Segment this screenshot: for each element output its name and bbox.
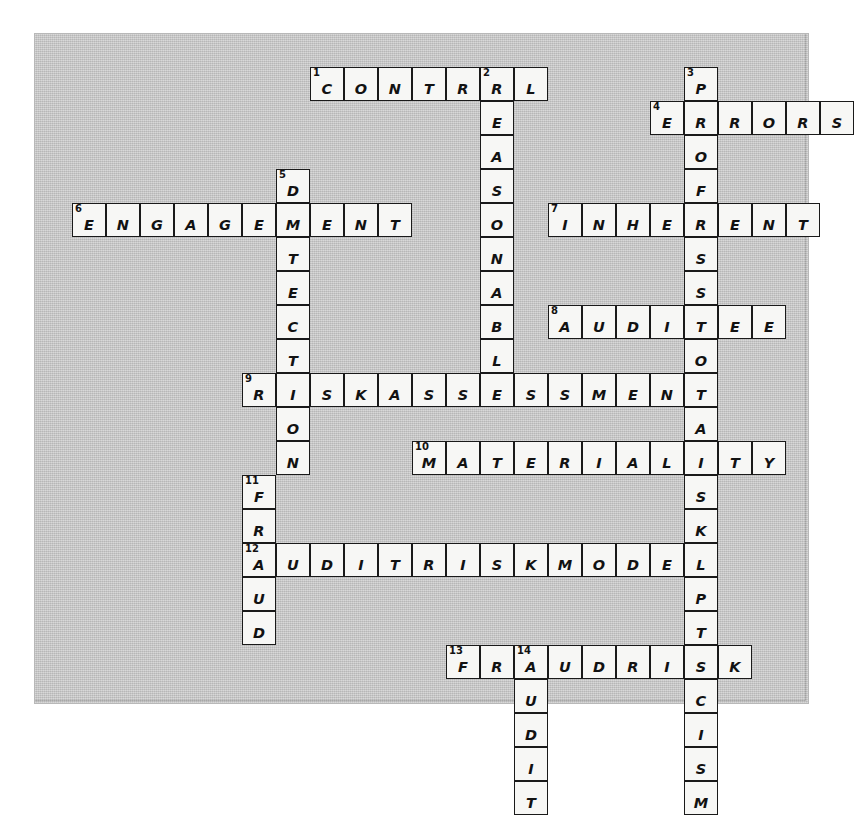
crossword-cell-c17-r11[interactable]: L — [650, 441, 684, 475]
crossword-cell-c14-r4[interactable]: 7I — [548, 203, 582, 237]
crossword-cell-c18-r9[interactable]: T — [684, 373, 718, 407]
crossword-cell-c8-r0[interactable]: O — [344, 67, 378, 101]
crossword-cell-c4-r4[interactable]: G — [208, 203, 242, 237]
crossword-cell-c18-r8[interactable]: O — [684, 339, 718, 373]
crossword-cell-c18-r6[interactable]: S — [684, 271, 718, 305]
crossword-cell-c20-r1[interactable]: O — [752, 101, 786, 135]
crossword-cell-c17-r17[interactable]: I — [650, 645, 684, 679]
crossword-cell-c6-r4[interactable]: M — [276, 203, 310, 237]
crossword-cell-c13-r20[interactable]: I — [514, 747, 548, 781]
crossword-cell-c18-r20[interactable]: S — [684, 747, 718, 781]
crossword-cell-c5-r16[interactable]: D — [242, 611, 276, 645]
crossword-cell-c18-r17[interactable]: S — [684, 645, 718, 679]
crossword-cell-c12-r5[interactable]: N — [480, 237, 514, 271]
crossword-cell-c12-r14[interactable]: S — [480, 543, 514, 577]
crossword-cell-c7-r0[interactable]: 1C — [310, 67, 344, 101]
crossword-cell-c6-r8[interactable]: T — [276, 339, 310, 373]
crossword-cell-c14-r14[interactable]: M — [548, 543, 582, 577]
crossword-cell-c15-r4[interactable]: N — [582, 203, 616, 237]
crossword-cell-c14-r11[interactable]: R — [548, 441, 582, 475]
crossword-cell-c17-r14[interactable]: E — [650, 543, 684, 577]
crossword-cell-c14-r17[interactable]: U — [548, 645, 582, 679]
crossword-cell-c5-r14[interactable]: 12A — [242, 543, 276, 577]
crossword-cell-c17-r1[interactable]: 4E — [650, 101, 684, 135]
crossword-cell-c7-r9[interactable]: S — [310, 373, 344, 407]
crossword-cell-c6-r5[interactable]: T — [276, 237, 310, 271]
crossword-cell-c12-r4[interactable]: O — [480, 203, 514, 237]
crossword-cell-c18-r7[interactable]: T — [684, 305, 718, 339]
crossword-cell-c5-r13[interactable]: R — [242, 509, 276, 543]
crossword-cell-c13-r21[interactable]: T — [514, 781, 548, 815]
crossword-cell-c21-r4[interactable]: T — [786, 203, 820, 237]
crossword-cell-c16-r9[interactable]: E — [616, 373, 650, 407]
crossword-cell-c12-r1[interactable]: E — [480, 101, 514, 135]
crossword-cell-c14-r9[interactable]: S — [548, 373, 582, 407]
crossword-cell-c18-r2[interactable]: O — [684, 135, 718, 169]
crossword-cell-c19-r17[interactable]: K — [718, 645, 752, 679]
crossword-cell-c9-r4[interactable]: T — [378, 203, 412, 237]
crossword-cell-c18-r10[interactable]: A — [684, 407, 718, 441]
crossword-cell-c1-r4[interactable]: N — [106, 203, 140, 237]
crossword-cell-c2-r4[interactable]: G — [140, 203, 174, 237]
crossword-cell-c19-r4[interactable]: E — [718, 203, 752, 237]
crossword-cell-c18-r11[interactable]: I — [684, 441, 718, 475]
crossword-cell-c10-r9[interactable]: S — [412, 373, 446, 407]
crossword-cell-c7-r14[interactable]: D — [310, 543, 344, 577]
crossword-cell-c8-r9[interactable]: K — [344, 373, 378, 407]
crossword-cell-c13-r11[interactable]: E — [514, 441, 548, 475]
crossword-cell-c0-r4[interactable]: 6E — [72, 203, 106, 237]
crossword-cell-c18-r18[interactable]: C — [684, 679, 718, 713]
crossword-cell-c11-r17[interactable]: 13F — [446, 645, 480, 679]
crossword-cell-c18-r12[interactable]: S — [684, 475, 718, 509]
crossword-cell-c17-r4[interactable]: E — [650, 203, 684, 237]
crossword-cell-c16-r7[interactable]: D — [616, 305, 650, 339]
crossword-cell-c10-r0[interactable]: T — [412, 67, 446, 101]
crossword-cell-c19-r11[interactable]: T — [718, 441, 752, 475]
crossword-cell-c12-r0[interactable]: 2R — [480, 67, 514, 101]
crossword-cell-c12-r7[interactable]: B — [480, 305, 514, 339]
crossword-cell-c18-r3[interactable]: F — [684, 169, 718, 203]
crossword-cell-c8-r14[interactable]: I — [344, 543, 378, 577]
crossword-cell-c12-r6[interactable]: A — [480, 271, 514, 305]
crossword-cell-c18-r21[interactable]: M — [684, 781, 718, 815]
crossword-cell-c12-r3[interactable]: S — [480, 169, 514, 203]
crossword-cell-c13-r14[interactable]: K — [514, 543, 548, 577]
crossword-cell-c11-r0[interactable]: R — [446, 67, 480, 101]
crossword-cell-c6-r14[interactable]: U — [276, 543, 310, 577]
crossword-cell-c6-r6[interactable]: E — [276, 271, 310, 305]
crossword-cell-c19-r7[interactable]: E — [718, 305, 752, 339]
crossword-cell-c10-r14[interactable]: R — [412, 543, 446, 577]
crossword-cell-c18-r15[interactable]: P — [684, 577, 718, 611]
crossword-cell-c12-r9[interactable]: E — [480, 373, 514, 407]
crossword-cell-c15-r7[interactable]: U — [582, 305, 616, 339]
crossword-cell-c13-r18[interactable]: U — [514, 679, 548, 713]
crossword-cell-c16-r17[interactable]: R — [616, 645, 650, 679]
crossword-cell-c5-r15[interactable]: U — [242, 577, 276, 611]
crossword-cell-c6-r11[interactable]: N — [276, 441, 310, 475]
crossword-cell-c18-r16[interactable]: T — [684, 611, 718, 645]
crossword-cell-c16-r11[interactable]: A — [616, 441, 650, 475]
crossword-cell-c15-r11[interactable]: I — [582, 441, 616, 475]
crossword-cell-c15-r17[interactable]: D — [582, 645, 616, 679]
crossword-cell-c13-r9[interactable]: S — [514, 373, 548, 407]
crossword-cell-c9-r9[interactable]: A — [378, 373, 412, 407]
crossword-cell-c3-r4[interactable]: A — [174, 203, 208, 237]
crossword-cell-c5-r9[interactable]: 9R — [242, 373, 276, 407]
crossword-cell-c12-r11[interactable]: T — [480, 441, 514, 475]
crossword-cell-c17-r9[interactable]: N — [650, 373, 684, 407]
crossword-cell-c18-r13[interactable]: K — [684, 509, 718, 543]
crossword-cell-c6-r7[interactable]: C — [276, 305, 310, 339]
crossword-cell-c19-r1[interactable]: R — [718, 101, 752, 135]
crossword-cell-c18-r19[interactable]: I — [684, 713, 718, 747]
crossword-cell-c17-r7[interactable]: I — [650, 305, 684, 339]
crossword-cell-c9-r14[interactable]: T — [378, 543, 412, 577]
crossword-cell-c6-r9[interactable]: I — [276, 373, 310, 407]
crossword-cell-c15-r9[interactable]: M — [582, 373, 616, 407]
crossword-cell-c5-r4[interactable]: E — [242, 203, 276, 237]
crossword-cell-c10-r11[interactable]: 10M — [412, 441, 446, 475]
crossword-cell-c13-r0[interactable]: L — [514, 67, 548, 101]
crossword-cell-c18-r0[interactable]: 3P — [684, 67, 718, 101]
crossword-cell-c21-r1[interactable]: R — [786, 101, 820, 135]
crossword-cell-c16-r4[interactable]: H — [616, 203, 650, 237]
crossword-cell-c18-r1[interactable]: R — [684, 101, 718, 135]
